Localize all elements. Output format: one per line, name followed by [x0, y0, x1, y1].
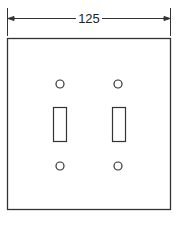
right-arrowhead-icon	[164, 17, 170, 21]
left-arrowhead-icon	[8, 17, 14, 21]
wall-plate-outline	[8, 39, 171, 210]
wall-plate-drawing: 125	[0, 0, 182, 226]
dimension-label: 125	[78, 11, 100, 26]
